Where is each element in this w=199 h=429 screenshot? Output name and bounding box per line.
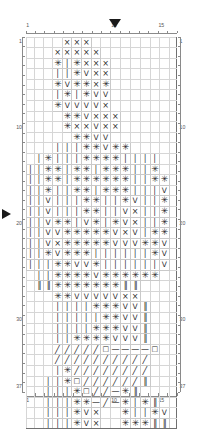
double-bar-stitch-symbol[interactable]: ‖ <box>140 312 150 323</box>
v-stitch-symbol[interactable]: V <box>160 259 170 270</box>
empty-cell[interactable] <box>43 90 53 101</box>
asterisk-stitch-symbol[interactable]: ✳ <box>82 175 92 186</box>
asterisk-stitch-symbol[interactable]: ✳ <box>43 154 53 165</box>
vertical-bar-stitch-symbol[interactable]: │ <box>35 270 44 281</box>
empty-cell[interactable] <box>43 69 53 80</box>
empty-cell[interactable] <box>26 122 35 133</box>
vertical-bar-stitch-symbol[interactable]: │ <box>53 365 63 376</box>
asterisk-stitch-symbol[interactable]: ✳ <box>72 334 82 345</box>
asterisk-stitch-symbol[interactable]: ✳ <box>53 175 63 186</box>
empty-cell[interactable] <box>110 132 120 143</box>
asterisk-stitch-symbol[interactable]: ✳ <box>72 387 82 398</box>
vertical-bar-stitch-symbol[interactable]: │ <box>26 228 35 239</box>
empty-cell[interactable] <box>26 79 35 90</box>
vertical-bar-stitch-symbol[interactable]: │ <box>130 154 140 165</box>
vertical-bar-stitch-symbol[interactable]: │ <box>43 418 53 429</box>
double-bar-stitch-symbol[interactable]: ‖ <box>140 334 150 345</box>
v-stitch-symbol[interactable]: V <box>72 291 82 302</box>
empty-cell[interactable] <box>35 312 44 323</box>
vertical-bar-stitch-symbol[interactable]: │ <box>53 90 63 101</box>
vertical-bar-stitch-symbol[interactable]: │ <box>26 249 35 260</box>
empty-cell[interactable] <box>169 143 176 154</box>
v-stitch-symbol[interactable]: V <box>82 291 92 302</box>
cross-stitch-symbol[interactable]: × <box>101 101 111 112</box>
double-bar-stitch-symbol[interactable]: ‖ <box>140 376 150 387</box>
vertical-bar-stitch-symbol[interactable]: │ <box>72 302 82 313</box>
slash-stitch-symbol[interactable]: ╱ <box>91 355 101 366</box>
asterisk-stitch-symbol[interactable]: ✳ <box>120 418 130 429</box>
empty-cell[interactable] <box>120 37 130 48</box>
empty-cell[interactable] <box>140 37 150 48</box>
empty-cell[interactable] <box>130 48 140 59</box>
asterisk-stitch-symbol[interactable]: ✳ <box>82 185 92 196</box>
empty-cell[interactable] <box>101 408 111 419</box>
vertical-bar-stitch-symbol[interactable]: │ <box>72 90 82 101</box>
vertical-bar-stitch-symbol[interactable]: │ <box>62 69 72 80</box>
asterisk-stitch-symbol[interactable]: ✳ <box>72 397 82 408</box>
empty-cell[interactable] <box>120 132 130 143</box>
asterisk-stitch-symbol[interactable]: ✳ <box>101 312 111 323</box>
empty-cell[interactable] <box>35 90 44 101</box>
asterisk-stitch-symbol[interactable]: ✳ <box>62 281 72 292</box>
asterisk-stitch-symbol[interactable]: ✳ <box>82 196 92 207</box>
double-bar-stitch-symbol[interactable]: ‖ <box>35 281 44 292</box>
asterisk-stitch-symbol[interactable]: ✳ <box>43 164 53 175</box>
v-stitch-symbol[interactable]: V <box>82 101 92 112</box>
empty-cell[interactable] <box>169 418 176 429</box>
empty-cell[interactable] <box>35 122 44 133</box>
asterisk-stitch-symbol[interactable]: ✳ <box>150 175 160 186</box>
empty-cell[interactable] <box>169 37 176 48</box>
empty-cell[interactable] <box>43 58 53 69</box>
dash-stitch-symbol[interactable]: — <box>120 344 130 355</box>
cross-stitch-symbol[interactable]: × <box>120 228 130 239</box>
empty-cell[interactable] <box>169 196 176 207</box>
v-stitch-symbol[interactable]: V <box>82 111 92 122</box>
empty-cell[interactable] <box>26 37 35 48</box>
asterisk-stitch-symbol[interactable]: ✳ <box>53 281 63 292</box>
empty-cell[interactable] <box>160 365 170 376</box>
cross-stitch-symbol[interactable]: × <box>82 37 92 48</box>
empty-cell[interactable] <box>35 365 44 376</box>
empty-cell[interactable] <box>110 58 120 69</box>
asterisk-stitch-symbol[interactable]: ✳ <box>150 164 160 175</box>
dash-stitch-symbol[interactable]: — <box>140 344 150 355</box>
vertical-bar-stitch-symbol[interactable]: │ <box>120 249 130 260</box>
empty-cell[interactable] <box>120 111 130 122</box>
vertical-bar-stitch-symbol[interactable]: │ <box>26 175 35 186</box>
empty-cell[interactable] <box>130 132 140 143</box>
empty-cell[interactable] <box>140 291 150 302</box>
empty-cell[interactable] <box>110 48 120 59</box>
asterisk-stitch-symbol[interactable]: ✳ <box>101 334 111 345</box>
vertical-bar-stitch-symbol[interactable]: │ <box>101 249 111 260</box>
slash-stitch-symbol[interactable]: ╱ <box>120 365 130 376</box>
empty-cell[interactable] <box>160 344 170 355</box>
vertical-bar-stitch-symbol[interactable]: │ <box>53 408 63 419</box>
asterisk-stitch-symbol[interactable]: ✳ <box>43 175 53 186</box>
empty-cell[interactable] <box>43 312 53 323</box>
cross-stitch-symbol[interactable]: × <box>91 58 101 69</box>
v-stitch-symbol[interactable]: V <box>130 312 140 323</box>
empty-cell[interactable] <box>150 79 160 90</box>
empty-cell[interactable] <box>169 164 176 175</box>
vertical-bar-stitch-symbol[interactable]: │ <box>82 302 92 313</box>
cross-stitch-symbol[interactable]: × <box>82 58 92 69</box>
empty-cell[interactable] <box>35 143 44 154</box>
vertical-bar-stitch-symbol[interactable]: │ <box>62 323 72 334</box>
cross-stitch-symbol[interactable]: × <box>82 48 92 59</box>
empty-cell[interactable] <box>169 58 176 69</box>
asterisk-stitch-symbol[interactable]: ✳ <box>53 270 63 281</box>
v-stitch-symbol[interactable]: V <box>120 302 130 313</box>
asterisk-stitch-symbol[interactable]: ✳ <box>91 302 101 313</box>
empty-cell[interactable] <box>160 334 170 345</box>
empty-cell[interactable] <box>150 312 160 323</box>
asterisk-stitch-symbol[interactable]: ✳ <box>140 397 150 408</box>
empty-cell[interactable] <box>169 270 176 281</box>
empty-cell[interactable] <box>43 37 53 48</box>
slash-stitch-symbol[interactable]: ╱ <box>101 365 111 376</box>
asterisk-stitch-symbol[interactable]: ✳ <box>140 270 150 281</box>
empty-cell[interactable] <box>130 101 140 112</box>
v-stitch-symbol[interactable]: V <box>62 79 72 90</box>
empty-cell[interactable] <box>169 69 176 80</box>
empty-cell[interactable] <box>110 90 120 101</box>
asterisk-stitch-symbol[interactable]: ✳ <box>160 217 170 228</box>
